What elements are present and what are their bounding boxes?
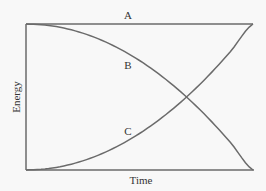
plot-area bbox=[26, 24, 254, 170]
x-axis-label: Time bbox=[130, 174, 153, 186]
series-b-label: B bbox=[124, 59, 131, 71]
energy-time-chart: A B C Time Energy bbox=[0, 0, 266, 191]
series-b-line bbox=[26, 24, 253, 170]
series-c-label: C bbox=[124, 125, 131, 137]
series-c-line bbox=[26, 24, 253, 170]
series-a-label: A bbox=[124, 9, 132, 21]
y-axis-label: Energy bbox=[10, 81, 22, 113]
